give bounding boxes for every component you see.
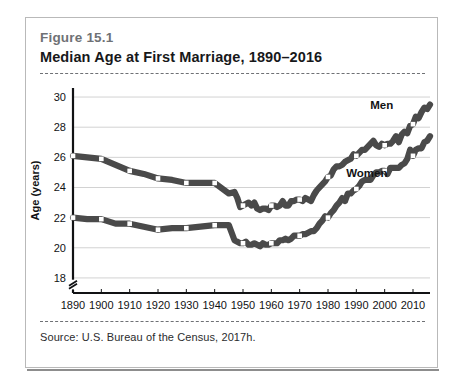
svg-text:1930: 1930 [174, 299, 198, 311]
svg-text:18: 18 [54, 272, 66, 284]
svg-text:22: 22 [54, 212, 66, 224]
svg-text:1940: 1940 [202, 299, 226, 311]
svg-text:30: 30 [54, 91, 66, 103]
y-axis [69, 88, 77, 293]
svg-text:28: 28 [54, 121, 66, 133]
svg-text:1900: 1900 [89, 299, 113, 311]
gridlines [73, 97, 430, 278]
series-labels: MenWomen [346, 99, 393, 179]
svg-text:2000: 2000 [372, 299, 396, 311]
figure-title: Median Age at First Marriage, 1890–2016 [40, 49, 322, 65]
x-tick-labels: 1890190019101920193019401950196019701980… [61, 299, 425, 311]
y-axis-title: Age (years) [29, 160, 41, 220]
svg-text:1980: 1980 [316, 299, 340, 311]
svg-text:1950: 1950 [231, 299, 255, 311]
svg-text:1910: 1910 [117, 299, 141, 311]
svg-text:2010: 2010 [401, 299, 425, 311]
svg-text:1970: 1970 [287, 299, 311, 311]
svg-text:26: 26 [54, 151, 66, 163]
svg-text:20: 20 [54, 242, 66, 254]
chart-plot-area: 18202224262830 1890190019101920193019401… [26, 80, 439, 320]
figure-card: Figure 15.1 Median Age at First Marriage… [25, 17, 438, 368]
y-tick-labels: 18202224262830 [54, 91, 66, 284]
figure-number: Figure 15.1 [40, 30, 113, 45]
series-label-men: Men [370, 99, 393, 111]
svg-text:1990: 1990 [344, 299, 368, 311]
dashed-rule-top [40, 73, 425, 74]
dashed-rule-bottom [40, 321, 425, 322]
svg-text:1960: 1960 [259, 299, 283, 311]
card-drop-shadow [27, 369, 439, 371]
source-note: Source: U.S. Bureau of the Census, 2017h… [40, 331, 256, 343]
svg-text:24: 24 [54, 181, 66, 193]
svg-text:1920: 1920 [146, 299, 170, 311]
series-label-women: Women [346, 167, 387, 179]
line-chart-svg: 18202224262830 1890190019101920193019401… [26, 80, 439, 320]
svg-text:1890: 1890 [61, 299, 85, 311]
